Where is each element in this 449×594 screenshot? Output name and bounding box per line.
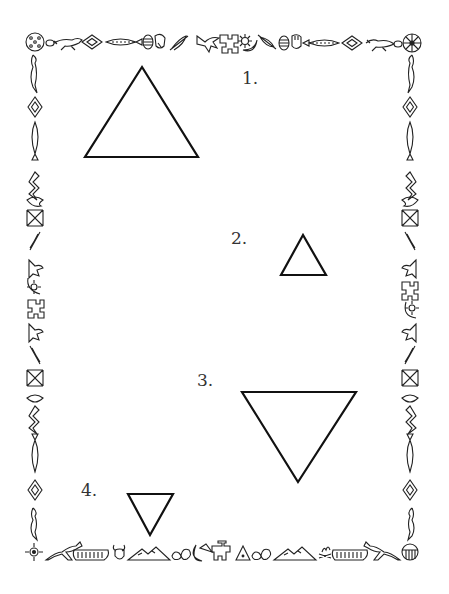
item-label-4: 4. (81, 482, 97, 499)
item-label-1: 1. (242, 70, 258, 87)
triangle-3 (242, 392, 356, 482)
item-label-2: 2. (231, 230, 247, 247)
triangle-figures (0, 0, 449, 594)
worksheet-page: 1. 2. 3. 4. (0, 0, 449, 594)
triangle-2 (281, 235, 326, 275)
triangle-1 (85, 67, 198, 157)
triangle-4 (128, 494, 173, 535)
item-label-3: 3. (197, 372, 213, 389)
